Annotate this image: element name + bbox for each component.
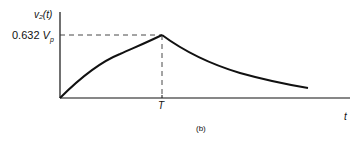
charging-curve (60, 35, 162, 98)
y-tick-label: 0.632 Vp (12, 30, 54, 43)
y-tick-subscript: p (50, 36, 54, 43)
figure-caption: (b) (196, 125, 206, 133)
x-tick-label-T: T (158, 101, 164, 111)
y-axis-label: v₂(t) (34, 10, 52, 20)
x-axis-label: t (344, 112, 347, 122)
discharging-curve (162, 35, 308, 88)
y-tick-value: 0.632 (12, 29, 40, 41)
waveform-plot (0, 0, 359, 145)
y-tick-symbol: V (43, 29, 50, 41)
